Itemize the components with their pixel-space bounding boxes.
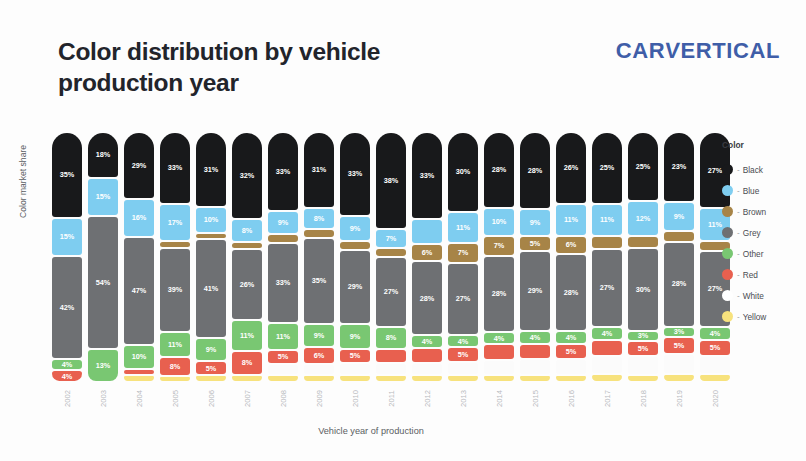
bar-segment-2016-other[interactable]: 4% bbox=[556, 332, 586, 343]
bar-segment-2004-black[interactable]: 29% bbox=[124, 133, 154, 198]
bar-segment-2009-grey[interactable]: 35% bbox=[304, 239, 334, 323]
bar-segment-2010-yellow[interactable] bbox=[340, 376, 370, 381]
bar-segment-2008-other[interactable]: 11% bbox=[268, 324, 298, 350]
bar-segment-2005-other[interactable]: 11% bbox=[160, 333, 190, 356]
bar-segment-2009-white[interactable] bbox=[304, 365, 334, 375]
legend-item-white[interactable]: -White bbox=[722, 285, 800, 306]
bar-segment-2013-yellow[interactable] bbox=[448, 376, 478, 381]
bar-segment-2015-black[interactable]: 28% bbox=[520, 133, 550, 208]
bar-segment-2009-yellow[interactable] bbox=[304, 376, 334, 381]
bar-segment-2019-blue[interactable]: 9% bbox=[664, 203, 694, 230]
legend-item-blue[interactable]: -Blue bbox=[722, 180, 800, 201]
bar-segment-2012-red[interactable] bbox=[412, 349, 442, 362]
bar-segment-2016-black[interactable]: 26% bbox=[556, 133, 586, 203]
bar-segment-2004-red[interactable] bbox=[124, 370, 154, 374]
bar-column-2012[interactable]: 33%6%28%4% bbox=[412, 133, 442, 381]
bar-segment-2008-red[interactable]: 5% bbox=[268, 351, 298, 363]
bar-segment-2019-grey[interactable]: 28% bbox=[664, 243, 694, 326]
bar-column-2017[interactable]: 25%11%27%4% bbox=[592, 133, 622, 381]
bar-segment-2012-other[interactable]: 4% bbox=[412, 336, 442, 346]
bar-segment-2013-blue[interactable]: 11% bbox=[448, 213, 478, 242]
bar-segment-2002-other[interactable]: 4% bbox=[52, 360, 82, 370]
bar-column-2018[interactable]: 25%12%30%3%5% bbox=[628, 133, 658, 381]
bar-segment-2016-grey[interactable]: 28% bbox=[556, 255, 586, 330]
bar-column-2016[interactable]: 26%11%6%28%4%5% bbox=[556, 133, 586, 381]
bar-segment-2008-yellow[interactable] bbox=[268, 376, 298, 381]
bar-segment-2019-brown[interactable] bbox=[664, 232, 694, 241]
bar-segment-2018-other[interactable]: 3% bbox=[628, 332, 658, 340]
bar-segment-2011-white[interactable] bbox=[376, 364, 406, 374]
legend-item-black[interactable]: -Black bbox=[722, 159, 800, 180]
bar-segment-2015-blue[interactable]: 9% bbox=[520, 210, 550, 234]
bar-segment-2014-blue[interactable]: 10% bbox=[484, 209, 514, 235]
bar-column-2007[interactable]: 32%8%26%11%8% bbox=[232, 133, 262, 381]
bar-segment-2007-brown[interactable] bbox=[232, 243, 262, 248]
bar-segment-2013-grey[interactable]: 27% bbox=[448, 264, 478, 334]
bar-segment-2010-blue[interactable]: 9% bbox=[340, 217, 370, 239]
bar-segment-2015-grey[interactable]: 29% bbox=[520, 252, 550, 330]
bar-column-2019[interactable]: 23%9%28%3%5% bbox=[664, 133, 694, 381]
bar-segment-2007-yellow[interactable] bbox=[232, 376, 262, 381]
bar-column-2006[interactable]: 31%10%41%9%5% bbox=[196, 133, 226, 381]
bar-segment-2012-yellow[interactable] bbox=[412, 376, 442, 381]
bar-segment-2019-other[interactable]: 3% bbox=[664, 328, 694, 337]
bar-segment-2005-black[interactable]: 33% bbox=[160, 133, 190, 203]
bar-segment-2003-grey[interactable]: 54% bbox=[88, 217, 118, 348]
bar-segment-2014-white[interactable] bbox=[484, 361, 514, 374]
bar-column-2013[interactable]: 30%11%7%27%4%5% bbox=[448, 133, 478, 381]
bar-segment-2005-grey[interactable]: 39% bbox=[160, 249, 190, 331]
bar-segment-2008-black[interactable]: 33% bbox=[268, 133, 298, 210]
bar-segment-2020-other[interactable]: 4% bbox=[700, 328, 730, 339]
bar-segment-2005-yellow[interactable] bbox=[160, 377, 190, 381]
bar-segment-2003-other[interactable]: 13% bbox=[88, 350, 118, 381]
bar-segment-2018-blue[interactable]: 12% bbox=[628, 202, 658, 234]
bar-segment-2017-black[interactable]: 25% bbox=[592, 133, 622, 203]
bar-column-2011[interactable]: 38%7%27%8% bbox=[376, 133, 406, 381]
bar-segment-2017-other[interactable]: 4% bbox=[592, 328, 622, 339]
bar-segment-2003-black[interactable]: 18% bbox=[88, 133, 118, 177]
bar-segment-2012-black[interactable]: 33% bbox=[412, 133, 442, 218]
bar-segment-2018-brown[interactable] bbox=[628, 237, 658, 248]
bar-segment-2019-black[interactable]: 23% bbox=[664, 133, 694, 201]
bar-segment-2015-red[interactable] bbox=[520, 345, 550, 358]
bar-segment-2002-blue[interactable]: 15% bbox=[52, 219, 82, 255]
legend-item-yellow[interactable]: -Yellow bbox=[722, 306, 800, 327]
bar-segment-2009-red[interactable]: 6% bbox=[304, 348, 334, 362]
bar-segment-2019-red[interactable]: 5% bbox=[664, 338, 694, 353]
bar-column-2009[interactable]: 31%8%35%9%6% bbox=[304, 133, 334, 381]
bar-segment-2009-other[interactable]: 9% bbox=[304, 325, 334, 346]
bar-segment-2007-black[interactable]: 32% bbox=[232, 133, 262, 218]
bar-segment-2006-black[interactable]: 31% bbox=[196, 133, 226, 206]
bar-column-2004[interactable]: 29%16%47%10% bbox=[124, 133, 154, 381]
bar-segment-2014-red[interactable] bbox=[484, 345, 514, 358]
bar-segment-2014-black[interactable]: 28% bbox=[484, 133, 514, 207]
legend-item-other[interactable]: -Other bbox=[722, 243, 800, 264]
bar-segment-2005-brown[interactable] bbox=[160, 242, 190, 246]
bar-segment-2011-yellow[interactable] bbox=[376, 376, 406, 381]
bar-segment-2004-blue[interactable]: 16% bbox=[124, 200, 154, 236]
bar-segment-2007-grey[interactable]: 26% bbox=[232, 250, 262, 319]
bar-column-2008[interactable]: 33%9%33%11%5% bbox=[268, 133, 298, 381]
bar-segment-2017-yellow[interactable] bbox=[592, 375, 622, 381]
bar-segment-2020-white[interactable] bbox=[700, 357, 730, 374]
bar-segment-2006-blue[interactable]: 10% bbox=[196, 208, 226, 232]
bar-segment-2017-grey[interactable]: 27% bbox=[592, 250, 622, 325]
bar-segment-2017-brown[interactable] bbox=[592, 237, 622, 248]
bar-segment-2010-brown[interactable] bbox=[340, 242, 370, 249]
bar-segment-2003-blue[interactable]: 15% bbox=[88, 179, 118, 215]
bar-column-2002[interactable]: 35%15%42%4%4% bbox=[52, 133, 82, 381]
bar-segment-2018-black[interactable]: 25% bbox=[628, 133, 658, 200]
bar-segment-2012-blue[interactable] bbox=[412, 220, 442, 243]
bar-segment-2006-brown[interactable] bbox=[196, 234, 226, 239]
bar-segment-2004-yellow[interactable] bbox=[124, 376, 154, 380]
bar-segment-2006-other[interactable]: 9% bbox=[196, 339, 226, 360]
bar-segment-2013-brown[interactable]: 7% bbox=[448, 244, 478, 262]
bar-segment-2016-blue[interactable]: 11% bbox=[556, 205, 586, 235]
bar-segment-2018-yellow[interactable] bbox=[628, 376, 658, 381]
bar-segment-2002-black[interactable]: 35% bbox=[52, 133, 82, 217]
bar-column-2003[interactable]: 18%15%54%13% bbox=[88, 133, 118, 381]
bar-segment-2016-red[interactable]: 5% bbox=[556, 345, 586, 358]
bar-segment-2014-brown[interactable]: 7% bbox=[484, 237, 514, 255]
bar-segment-2007-blue[interactable]: 8% bbox=[232, 220, 262, 241]
bar-segment-2011-red[interactable] bbox=[376, 350, 406, 362]
